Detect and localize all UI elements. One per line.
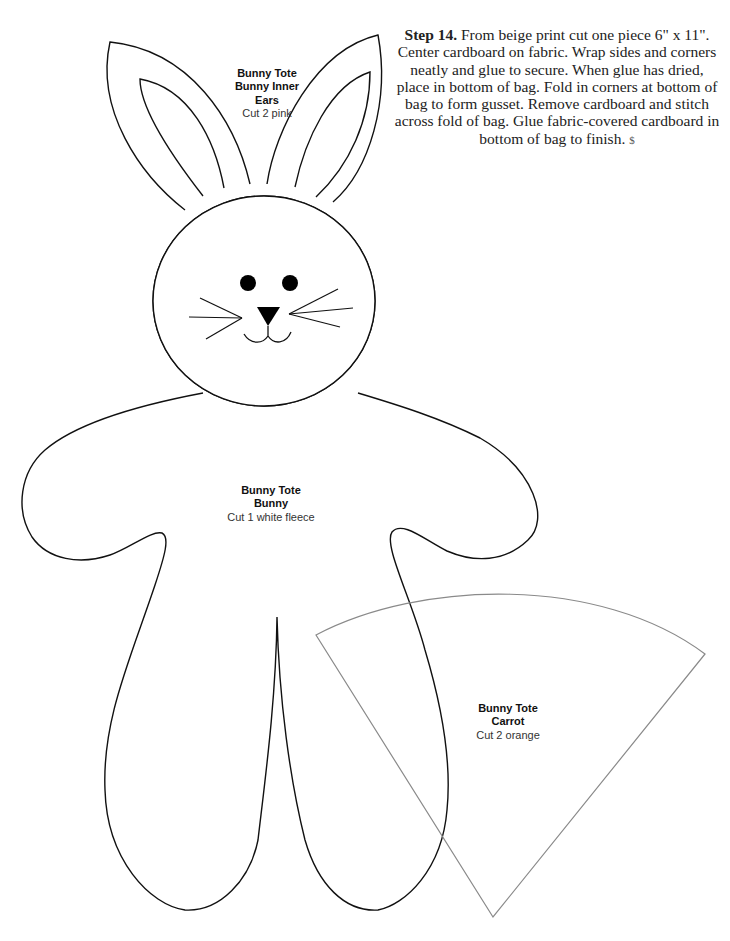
inner-ears-cut: Cut 2 pink <box>227 107 307 120</box>
carrot-title-2: Carrot <box>458 715 558 728</box>
carrot-title-1: Bunny Tote <box>458 702 558 715</box>
end-mark: $ <box>629 134 635 146</box>
step-text: From beige print cut one piece 6" x 11".… <box>395 26 720 147</box>
bunny-body-title-1: Bunny Tote <box>211 484 331 497</box>
inner-ears-label: Bunny Tote Bunny Inner Ears Cut 2 pink <box>227 67 307 120</box>
bunny-body-outline <box>22 393 538 910</box>
carrot-label: Bunny Tote Carrot Cut 2 orange <box>458 702 558 742</box>
pattern-page: Step 14. From beige print cut one piece … <box>0 0 730 941</box>
step-label: Step 14. <box>405 26 458 43</box>
bunny-head-fill <box>153 196 375 406</box>
inner-ears-title-2: Bunny Inner <box>227 80 307 93</box>
step-14-instructions: Step 14. From beige print cut one piece … <box>394 26 720 149</box>
left-eye-icon <box>240 275 256 291</box>
carrot-outline <box>316 594 705 917</box>
inner-ears-title-3: Ears <box>227 94 307 107</box>
bunny-body-cut: Cut 1 white fleece <box>211 511 331 524</box>
carrot-cut: Cut 2 orange <box>458 729 558 742</box>
bunny-body-title-2: Bunny <box>211 497 331 510</box>
bunny-body-label: Bunny Tote Bunny Cut 1 white fleece <box>211 484 331 524</box>
inner-ears-title-1: Bunny Tote <box>227 67 307 80</box>
right-eye-icon <box>282 275 298 291</box>
